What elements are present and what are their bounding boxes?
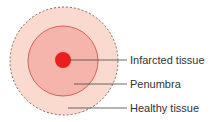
label-penumbra: Penumbra [130, 78, 181, 90]
label-healthy-tissue: Healthy tissue [130, 102, 199, 114]
label-infarcted-tissue: Infarcted tissue [130, 54, 205, 66]
infarct-core-circle [55, 52, 71, 68]
